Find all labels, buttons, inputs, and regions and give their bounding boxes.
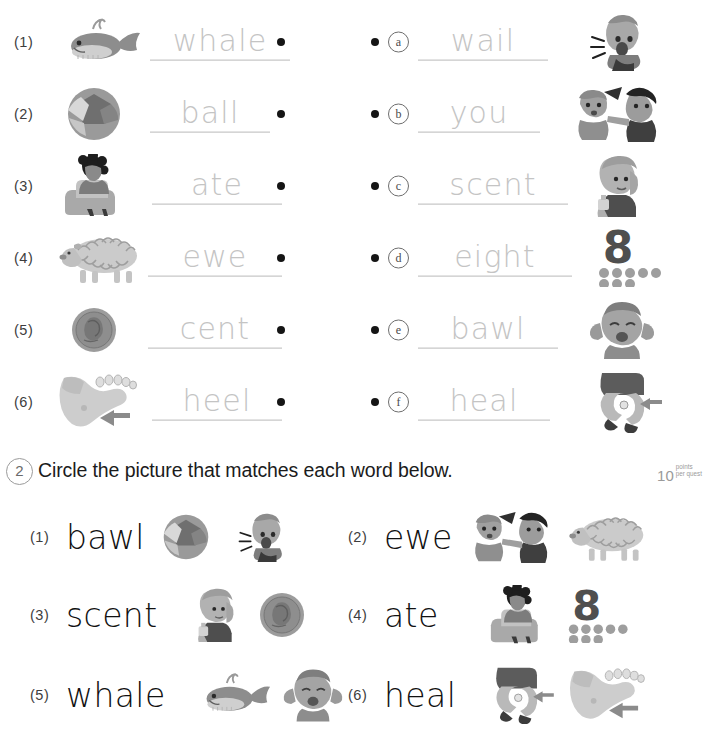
traced-word: ball: [150, 96, 270, 133]
item-number: (6): [14, 394, 33, 410]
traced-word: heel: [152, 384, 282, 421]
prompt-word: ewe: [384, 518, 453, 557]
match-dot-right[interactable]: [371, 398, 379, 406]
knee-bandage-picture: [592, 371, 664, 433]
foot-heel-picture: [56, 372, 150, 432]
item-number: (4): [348, 607, 367, 623]
points-per-label: per quest: [676, 470, 702, 477]
option-letter: d: [388, 248, 409, 269]
match-dot-right[interactable]: [371, 110, 379, 118]
sheep-picture: [56, 232, 144, 284]
number-eight-picture[interactable]: 8: [566, 587, 638, 643]
svg-text:8: 8: [603, 229, 634, 273]
traced-word: ewe: [148, 240, 282, 277]
boy-wailing-picture: [580, 13, 652, 71]
number-eight-picture: 8: [596, 229, 672, 287]
boy-pointing-picture[interactable]: [470, 511, 552, 563]
circle-exercise: 2 Circle the picture that matches each w…: [0, 450, 705, 751]
match-dot-left[interactable]: [277, 110, 285, 118]
prompt-word: whale: [66, 676, 166, 715]
penny-coin-picture: [70, 306, 118, 354]
matching-exercise: (1) whale a wail: [0, 0, 705, 450]
item-number: (6): [348, 687, 367, 703]
points-badge: 10pointsper quest: [657, 463, 702, 484]
girl-eating-picture: [62, 154, 128, 218]
circle-item: (6) heal: [348, 658, 698, 732]
match-row: (6) heel f heal: [0, 366, 705, 438]
sheep-picture[interactable]: [566, 512, 650, 562]
question-2-instruction: Circle the picture that matches each wor…: [38, 459, 453, 482]
item-number: (3): [14, 178, 33, 194]
match-dot-left[interactable]: [277, 326, 285, 334]
match-dot-right[interactable]: [371, 38, 379, 46]
circle-item: (3) scent: [30, 578, 350, 652]
match-row: (5) cent e bawl: [0, 294, 705, 366]
points-value: 10: [657, 467, 674, 484]
match-row: (4) ewe d: [0, 222, 705, 294]
circle-item: (2) ewe: [348, 500, 698, 574]
item-number: (3): [30, 607, 49, 623]
traced-word: bawl: [418, 312, 558, 349]
item-number: (5): [14, 322, 33, 338]
prompt-word: heal: [384, 676, 456, 715]
svg-text:8: 8: [572, 587, 601, 630]
prompt-word: scent: [66, 596, 158, 635]
points-label: points: [676, 463, 693, 470]
boy-wailing-picture[interactable]: [230, 511, 292, 563]
option-letter: a: [388, 32, 409, 53]
circle-item: (4) ate 8: [348, 578, 698, 652]
ball-picture[interactable]: [162, 513, 210, 561]
match-row: (1) whale a wail: [0, 6, 705, 78]
traced-word: whale: [150, 24, 290, 61]
match-row: (3) ate c scent: [0, 150, 705, 222]
traced-word: heal: [418, 384, 550, 421]
item-number: (2): [14, 106, 33, 122]
knee-bandage-picture[interactable]: [488, 666, 556, 724]
traced-word: scent: [418, 168, 568, 205]
question-2-header: 2 Circle the picture that matches each w…: [0, 455, 705, 493]
girl-crying-picture[interactable]: [282, 668, 344, 722]
question-number-badge: 2: [6, 458, 33, 485]
traced-word: you: [418, 96, 540, 133]
option-letter: e: [388, 320, 409, 341]
ball-picture: [66, 86, 122, 142]
woman-perfume-picture: [586, 155, 650, 217]
whale-picture: [62, 17, 144, 67]
prompt-word: bawl: [66, 518, 145, 557]
match-row: (2) ball b you: [0, 78, 705, 150]
item-number: (2): [348, 529, 367, 545]
match-dot-left[interactable]: [277, 182, 285, 190]
match-dot-right[interactable]: [371, 326, 379, 334]
traced-word: cent: [148, 312, 282, 349]
boy-pointing-picture: [574, 86, 660, 142]
item-number: (4): [14, 250, 33, 266]
whale-picture[interactable]: [198, 672, 274, 718]
traced-word: wail: [418, 24, 548, 61]
circle-item: (5) whale: [30, 658, 350, 732]
traced-word: eight: [418, 240, 572, 277]
match-dot-left[interactable]: [277, 254, 285, 262]
match-dot-right[interactable]: [371, 254, 379, 262]
item-number: (1): [30, 529, 49, 545]
option-letter: c: [388, 176, 409, 197]
penny-coin-picture[interactable]: [258, 591, 306, 639]
item-number: (5): [30, 687, 49, 703]
match-dot-left[interactable]: [277, 398, 285, 406]
woman-perfume-picture[interactable]: [188, 588, 244, 642]
option-letter: f: [388, 392, 409, 413]
foot-heel-picture[interactable]: [566, 666, 658, 724]
girl-crying-picture: [588, 301, 656, 359]
match-dot-left[interactable]: [277, 38, 285, 46]
prompt-word: ate: [384, 596, 439, 635]
item-number: (1): [14, 34, 33, 50]
option-letter: b: [388, 104, 409, 125]
traced-word: ate: [152, 168, 282, 205]
girl-eating-picture[interactable]: [488, 585, 550, 645]
circle-item: (1) bawl: [30, 500, 350, 574]
match-dot-right[interactable]: [371, 182, 379, 190]
